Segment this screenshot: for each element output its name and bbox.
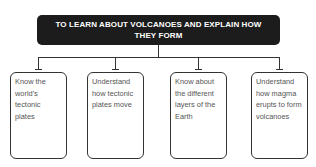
drop-connector-4 xyxy=(279,57,280,69)
drop-connector-1 xyxy=(38,57,39,69)
objective-box-4: Understand how magma erupts to form volc… xyxy=(251,72,308,159)
objective-text: Know the world's tectonic plates xyxy=(15,77,46,121)
horizontal-connector xyxy=(38,57,280,58)
drop-connector-3 xyxy=(198,57,199,69)
objective-text: Know about the different layers of the E… xyxy=(175,77,215,121)
objective-text: Understand how tectonic plates move xyxy=(92,77,133,109)
objective-box-1: Know the world's tectonic plates xyxy=(10,72,67,159)
drop-cap-1 xyxy=(35,69,42,70)
drop-cap-4 xyxy=(276,69,283,70)
drop-cap-3 xyxy=(195,69,202,70)
drop-connector-2 xyxy=(115,57,116,69)
objective-box-3: Know about the different layers of the E… xyxy=(170,72,227,159)
objective-box-2: Understand how tectonic plates move xyxy=(87,72,144,159)
drop-cap-2 xyxy=(112,69,119,70)
objective-text: Understand how magma erupts to form volc… xyxy=(256,77,302,121)
main-goal-title: TO LEARN ABOUT VOLCANOES AND EXPLAIN HOW… xyxy=(37,15,280,45)
stem-connector xyxy=(158,45,159,57)
